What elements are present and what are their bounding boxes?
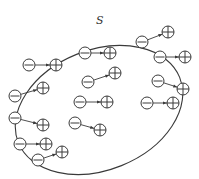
diagram-svg: S: [0, 0, 199, 179]
negative-charge-icon: [9, 112, 21, 124]
negative-charge-icon: [79, 47, 91, 59]
arrowhead-icon: [163, 101, 167, 104]
arrowhead-icon: [158, 34, 162, 37]
positive-charge-icon: [101, 96, 113, 108]
arrowhead-icon: [175, 55, 179, 58]
arrowhead-icon: [52, 154, 56, 157]
negative-charge-icon: [154, 51, 166, 63]
dipole: [23, 59, 62, 71]
positive-charge-icon: [40, 138, 52, 150]
dipole: [14, 138, 52, 150]
negative-charge-icon: [69, 117, 81, 129]
arrowhead-icon: [46, 63, 50, 66]
dipole: [74, 96, 113, 108]
dipole-diagram: S: [0, 0, 199, 179]
negative-charge-icon: [23, 59, 35, 71]
positive-charge-icon: [94, 124, 106, 136]
arrowhead-icon: [36, 142, 40, 145]
dipole: [154, 51, 191, 63]
dipole: [82, 67, 121, 88]
arrowhead-icon: [100, 51, 104, 54]
positive-charge-icon: [162, 26, 174, 38]
dipole: [69, 117, 106, 136]
positive-charge-icon: [109, 67, 121, 79]
negative-charge-icon: [9, 90, 21, 102]
positive-charge-icon: [167, 97, 179, 109]
arrowhead-icon: [97, 100, 101, 103]
positive-charge-icon: [37, 82, 49, 94]
arrowhead-icon: [173, 84, 177, 87]
arrowhead-icon: [33, 89, 37, 92]
arrowhead-icon: [105, 75, 109, 78]
negative-charge-icon: [136, 36, 148, 48]
dipole: [141, 97, 179, 109]
negative-charge-icon: [82, 76, 94, 88]
negative-charge-icon: [74, 96, 86, 108]
dipole: [79, 47, 116, 59]
negative-charge-icon: [14, 138, 26, 150]
dipole: [152, 75, 189, 95]
positive-charge-icon: [104, 47, 116, 59]
negative-charge-icon: [32, 154, 44, 166]
positive-charge-icon: [56, 146, 68, 158]
positive-charge-icon: [37, 119, 49, 131]
negative-charge-icon: [141, 97, 153, 109]
dipole: [9, 82, 49, 102]
positive-charge-icon: [177, 83, 189, 95]
arrowhead-icon: [90, 126, 94, 129]
dipole: [136, 26, 174, 48]
positive-charge-icon: [50, 59, 62, 71]
negative-charge-icon: [152, 75, 164, 87]
positive-charge-icon: [179, 51, 191, 63]
surface-label: S: [96, 14, 104, 27]
